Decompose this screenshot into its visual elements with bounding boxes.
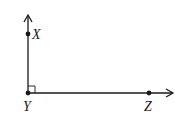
point-y (26, 91, 31, 96)
right-angle-diagram: X Y Z (0, 0, 175, 124)
ray-yx (24, 15, 32, 93)
point-x (26, 32, 31, 37)
label-z: Z (144, 99, 152, 114)
label-x: X (31, 27, 41, 42)
label-y: Y (23, 99, 33, 114)
point-z (147, 91, 152, 96)
